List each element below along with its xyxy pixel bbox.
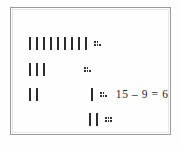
- tally-stroke-icon: [57, 37, 59, 50]
- dot-cluster-row-4: [105, 117, 112, 121]
- tally-stroke-icon: [91, 88, 93, 101]
- tally-stroke-icon: [85, 37, 87, 50]
- tally-strokes-row-3: [29, 88, 43, 101]
- tally-row-2: [29, 63, 91, 76]
- tally-row-4: [29, 113, 112, 126]
- dot-cluster-row-2: [84, 67, 91, 71]
- tally-stroke-icon: [64, 37, 66, 50]
- tally-stroke-icon: [36, 37, 38, 50]
- tally-stroke-icon: [43, 63, 45, 76]
- tally-stroke-icon: [71, 37, 73, 50]
- tally-stroke-icon: [50, 37, 52, 50]
- subtraction-equation: 15 – 9 = 6: [116, 89, 169, 101]
- tally-stroke-icon: [29, 37, 31, 50]
- figure-border: 15 – 9 = 6: [10, 7, 171, 135]
- tally-strokes-row-1: [29, 37, 92, 50]
- dot-cluster-row-3: [100, 92, 107, 96]
- tally-stroke-icon: [36, 88, 38, 101]
- tally-stroke-icon: [29, 63, 31, 76]
- tally-strokes-row-2: [29, 63, 50, 76]
- tally-stroke-icon: [78, 37, 80, 50]
- tally-strokes-row-4: [89, 113, 103, 126]
- tally-stroke-icon: [36, 63, 38, 76]
- tally-stroke-icon: [89, 113, 91, 126]
- tally-row-3: 15 – 9 = 6: [29, 88, 169, 101]
- dot-cluster-row-1: [94, 41, 101, 45]
- tally-stroke-icon: [43, 37, 45, 50]
- tally-stroke-icon: [96, 113, 98, 126]
- tally-stroke-icon: [29, 88, 31, 101]
- tally-row-1: [29, 37, 101, 50]
- tally-strokes-row-3-trailing: [91, 88, 98, 101]
- figure-page: 15 – 9 = 6: [0, 0, 180, 149]
